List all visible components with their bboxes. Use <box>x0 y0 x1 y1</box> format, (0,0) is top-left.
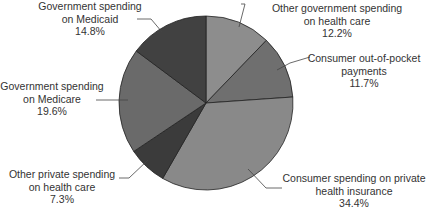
label-line-1: Government spending <box>0 80 104 93</box>
label-percent: 11.7% <box>305 77 423 90</box>
label-percent: 12.2% <box>262 27 412 40</box>
label-medicare: Government spending on Medicare 19.6% <box>0 80 104 118</box>
label-line-2: payments <box>305 65 423 78</box>
label-percent: 19.6% <box>0 105 104 118</box>
label-line-1: Government spending <box>37 0 143 13</box>
label-medicaid: Government spending on Medicaid 14.8% <box>37 0 143 38</box>
label-percent: 7.3% <box>2 193 122 206</box>
label-line-2: on Medicaid <box>37 13 143 26</box>
label-line-2: on Medicare <box>0 93 104 106</box>
pie-slices <box>119 16 293 190</box>
label-line-2: on health care <box>2 181 122 194</box>
label-other-government: Other government spending on health care… <box>262 2 412 40</box>
label-percent: 34.4% <box>281 197 427 210</box>
label-line-2: on health care <box>262 15 412 28</box>
label-out-of-pocket: Consumer out-of-pocket payments 11.7% <box>305 52 423 90</box>
label-line-1: Other government spending <box>262 2 412 15</box>
label-line-1: Other private spending <box>2 168 122 181</box>
label-other-private: Other private spending on health care 7.… <box>2 168 122 206</box>
label-line-1: Consumer spending on private <box>281 172 427 185</box>
label-private-insurance: Consumer spending on private health insu… <box>281 172 427 210</box>
label-percent: 14.8% <box>37 25 143 38</box>
label-line-2: health insurance <box>281 185 427 198</box>
label-line-1: Consumer out-of-pocket <box>305 52 423 65</box>
